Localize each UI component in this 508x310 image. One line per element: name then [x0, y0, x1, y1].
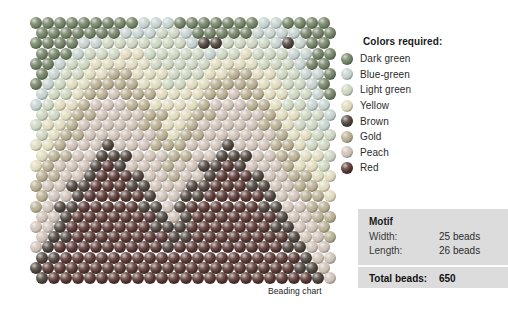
bead-swatch-peach-icon: [341, 146, 353, 158]
legend-item-dark-green: Dark green: [341, 51, 508, 67]
motif-total-row: Total beads: 650: [358, 267, 508, 284]
motif-length-value: 26 beads: [439, 244, 497, 258]
bead-red: [168, 272, 180, 284]
bead-brown: [312, 272, 324, 284]
legend-item-yellow: Yellow: [341, 98, 508, 114]
legend-label: Red: [360, 162, 379, 173]
legend-label: Dark green: [360, 53, 410, 64]
bead-red: [276, 272, 288, 284]
bead-swatch-yellow-icon: [341, 100, 353, 112]
bead-red: [300, 272, 312, 284]
bead-red: [180, 272, 192, 284]
legend-label: Light green: [360, 84, 411, 95]
bead-red: [288, 272, 300, 284]
bead-swatch-blue-green-icon: [341, 68, 353, 80]
bead-red: [48, 272, 60, 284]
beading-chart-area: Beading chart: [0, 0, 352, 310]
legend-label: Blue-green: [360, 69, 410, 80]
bead-red: [240, 272, 252, 284]
legend-label: Yellow: [360, 100, 389, 111]
bead-grid: [30, 17, 338, 285]
bead-swatch-red-icon: [341, 162, 353, 174]
bead-red: [156, 272, 168, 284]
color-legend: Colors required: Dark greenBlue-greenLig…: [341, 36, 508, 176]
legend-label: Gold: [360, 131, 382, 142]
legend-item-red: Red: [341, 160, 508, 176]
legend-item-light-green: Light green: [341, 82, 508, 98]
legend-label: Peach: [360, 147, 389, 158]
bead-red: [228, 272, 240, 284]
legend-title: Colors required:: [363, 36, 508, 47]
legend-item-gold: Gold: [341, 129, 508, 145]
total-beads-value: 650: [439, 273, 497, 284]
legend-item-blue-green: Blue-green: [341, 67, 508, 83]
bead-red: [204, 272, 216, 284]
bead-red: [72, 272, 84, 284]
motif-width-label: Width:: [369, 230, 397, 244]
bead-red: [252, 272, 264, 284]
bead-swatch-gold-icon: [341, 131, 353, 143]
motif-upper-section: Motif Width: 25 beads Length: 26 beads: [358, 209, 508, 263]
bead-swatch-light-green-icon: [341, 84, 353, 96]
bead-red: [264, 272, 276, 284]
legend-rows: Dark greenBlue-greenLight greenYellowBro…: [341, 51, 508, 176]
legend-item-peach: Peach: [341, 145, 508, 161]
bead-swatch-dark-green-icon: [341, 53, 353, 65]
total-beads-label: Total beads:: [369, 273, 427, 284]
bead-red: [144, 272, 156, 284]
motif-length-row: Length: 26 beads: [369, 244, 497, 258]
bead-red: [192, 272, 204, 284]
bead-red: [84, 272, 96, 284]
motif-info-box: Motif Width: 25 beads Length: 26 beads T…: [358, 209, 508, 288]
motif-heading: Motif: [369, 216, 497, 227]
bead-red: [120, 272, 132, 284]
motif-length-label: Length:: [369, 244, 402, 258]
legend-item-brown: Brown: [341, 113, 508, 129]
bead-peach: [324, 272, 336, 284]
bead-red: [60, 272, 72, 284]
bead-swatch-brown-icon: [341, 115, 353, 127]
bead-row: [36, 272, 336, 284]
bead-red: [132, 272, 144, 284]
chart-caption: Beading chart: [268, 286, 322, 296]
motif-width-row: Width: 25 beads: [369, 230, 497, 244]
bead-brown: [36, 272, 48, 284]
legend-label: Brown: [360, 116, 389, 127]
motif-width-value: 25 beads: [439, 230, 497, 244]
bead-red: [108, 272, 120, 284]
bead-red: [216, 272, 228, 284]
bead-red: [96, 272, 108, 284]
